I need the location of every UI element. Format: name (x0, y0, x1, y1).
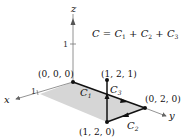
curve-label-c2: C2 (127, 120, 139, 132)
point-1-2-0 (105, 120, 109, 124)
x-axis-label: x (4, 94, 10, 105)
x-tick (37, 90, 38, 95)
point-label-0-2-0: (0, 2, 0) (145, 94, 181, 104)
equation: C = C1 + C2 + C3 (92, 28, 179, 41)
z-axis-label: z (70, 3, 77, 14)
point-0-2-0 (143, 106, 147, 110)
y-axis (145, 108, 166, 116)
path-diagram: z 1 x 1 y (0, 0, 0) (1, 2, 1) (0, 2, 0) … (0, 0, 184, 138)
point-label-1-2-1: (1, 2, 1) (101, 69, 137, 79)
curve-label-c3: C3 (110, 84, 122, 96)
point-label-origin: (0, 0, 0) (38, 69, 74, 79)
x-tick-label: 1 (31, 87, 36, 96)
point-label-1-2-0: (1, 2, 0) (79, 127, 115, 137)
z-axis-arrow-icon (71, 18, 76, 25)
z-tick-label: 1 (63, 40, 68, 49)
point-origin (71, 80, 75, 84)
y-axis-label: y (168, 110, 175, 121)
